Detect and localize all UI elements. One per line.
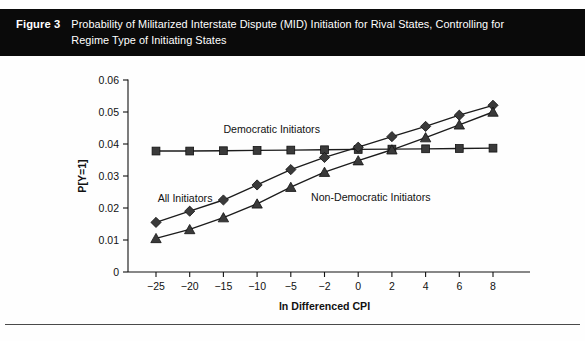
y-tick-label: 0.04 xyxy=(99,138,120,150)
x-tick-label: −2 xyxy=(319,280,331,292)
y-tick-label: 0 xyxy=(113,266,119,278)
figure-root: Figure 3 Probability of Militarized Inte… xyxy=(0,0,585,341)
x-tick-label: 0 xyxy=(355,280,361,292)
x-tick-label: −5 xyxy=(285,280,297,292)
figure-caption: Probability of Militarized Interstate Di… xyxy=(71,16,541,49)
x-tick-label: −20 xyxy=(181,280,199,292)
x-axis-title: ln Differenced CPI xyxy=(279,300,370,312)
data-point-triangle xyxy=(454,120,464,129)
data-point-diamond xyxy=(252,180,262,190)
series-annotation-2: All Initiators xyxy=(158,192,213,204)
data-point-triangle xyxy=(319,167,329,176)
data-point-square xyxy=(186,147,194,155)
data-point-square xyxy=(422,145,430,153)
data-point-diamond xyxy=(454,110,464,120)
x-tick-label: −15 xyxy=(214,280,232,292)
footer-divider xyxy=(5,324,580,325)
data-point-diamond xyxy=(286,165,296,175)
chart-area: 00.010.020.030.040.050.06−25−20−15−10−5−… xyxy=(0,56,585,321)
data-point-triangle xyxy=(353,156,363,165)
data-point-square xyxy=(455,145,463,153)
x-tick-label: 2 xyxy=(389,280,395,292)
y-tick-label: 0.01 xyxy=(99,234,120,246)
data-point-triangle xyxy=(286,182,296,191)
figure-number-label: Figure 3 xyxy=(16,16,60,32)
x-tick-label: −10 xyxy=(248,280,266,292)
line-chart: 00.010.020.030.040.050.06−25−20−15−10−5−… xyxy=(0,56,585,321)
data-point-diamond xyxy=(151,217,161,227)
data-point-triangle xyxy=(185,224,195,233)
data-point-triangle xyxy=(488,107,498,116)
series-annotation-3: Non-Democratic Initiators xyxy=(311,191,431,203)
y-tick-label: 0.02 xyxy=(99,202,120,214)
y-tick-label: 0.03 xyxy=(99,170,120,182)
data-point-diamond xyxy=(387,132,397,142)
data-point-diamond xyxy=(218,195,228,205)
data-point-triangle xyxy=(420,133,430,142)
data-point-square xyxy=(253,147,261,155)
y-axis-title: P[Y=1] xyxy=(76,159,88,192)
x-tick-label: 4 xyxy=(423,280,429,292)
data-point-square xyxy=(152,147,160,155)
data-point-square xyxy=(287,146,295,154)
data-point-triangle xyxy=(252,199,262,208)
data-point-diamond xyxy=(185,206,195,216)
x-tick-label: −25 xyxy=(147,280,165,292)
data-point-diamond xyxy=(421,121,431,131)
data-point-square xyxy=(489,144,497,152)
series-line-2 xyxy=(156,105,493,222)
x-tick-label: 8 xyxy=(490,280,496,292)
series-annotation-1: Democratic Initiators xyxy=(223,123,320,135)
data-point-square xyxy=(220,147,228,155)
data-point-triangle xyxy=(218,213,228,222)
x-tick-label: 6 xyxy=(456,280,462,292)
figure-header-band: Figure 3 Probability of Militarized Inte… xyxy=(0,9,585,56)
y-tick-label: 0.06 xyxy=(99,74,120,86)
y-tick-label: 0.05 xyxy=(99,106,120,118)
